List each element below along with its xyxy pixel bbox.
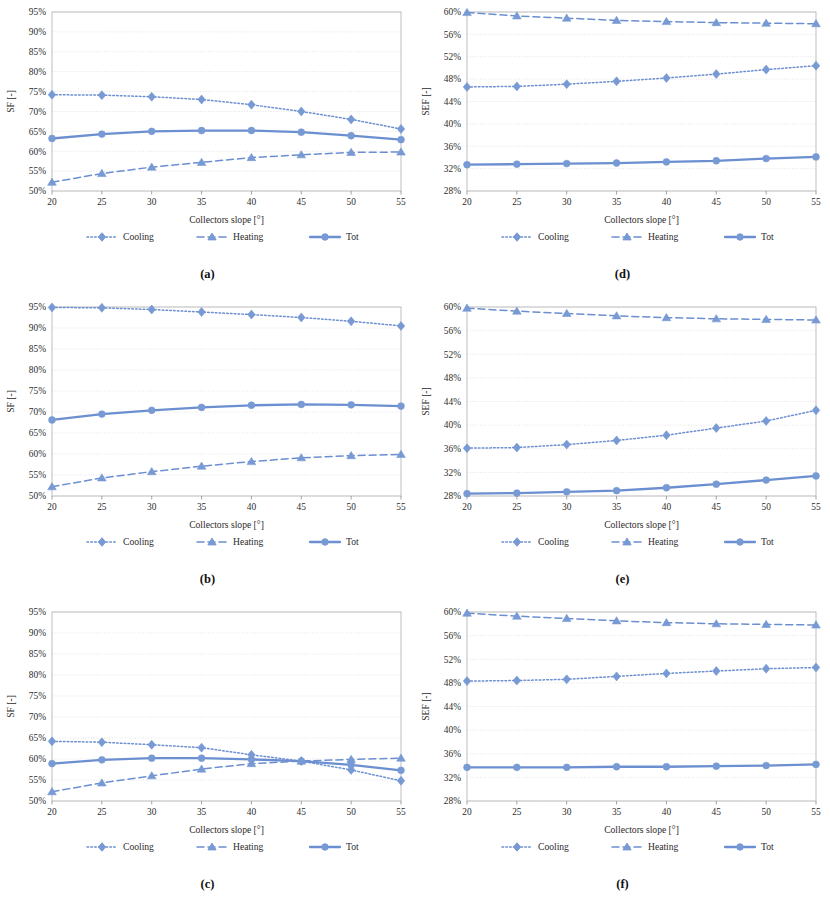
legend-item-heating[interactable]: Heating <box>612 536 679 547</box>
legend-item-tot[interactable]: Tot <box>310 231 359 242</box>
x-tick-label: 50 <box>346 807 356 817</box>
legend-label: Cooling <box>538 536 569 547</box>
legend: CoolingHeatingTot <box>502 231 774 242</box>
chart-panel-inner: 50%55%60%65%70%75%80%85%90%95%2025303540… <box>0 600 415 905</box>
y-tick-label: 80% <box>29 670 46 680</box>
y-axis-title: SF [-] <box>5 390 16 413</box>
data-point <box>198 404 205 411</box>
data-point <box>813 472 820 479</box>
y-tick-label: 28% <box>444 186 461 196</box>
legend-marker-circle <box>322 539 328 545</box>
y-tick-label: 52% <box>444 350 461 360</box>
x-axis-ticks: 2025303540455055 <box>462 191 821 207</box>
chart-b: 50%55%60%65%70%75%80%85%90%95%2025303540… <box>0 295 415 568</box>
y-tick-label: 56% <box>444 326 461 336</box>
legend-label: Tot <box>761 231 774 242</box>
legend-item-tot[interactable]: Tot <box>725 536 774 547</box>
legend-marker-diamond <box>98 233 105 242</box>
plot-area <box>52 307 401 496</box>
legend-item-heating[interactable]: Heating <box>612 841 679 852</box>
y-tick-label: 48% <box>444 678 461 688</box>
y-tick-label: 32% <box>444 468 461 478</box>
legend-marker-circle <box>737 539 743 545</box>
x-tick-label: 40 <box>662 807 672 817</box>
data-point <box>464 490 471 497</box>
legend-item-heating[interactable]: Heating <box>612 231 679 242</box>
legend-item-cooling[interactable]: Cooling <box>87 841 154 852</box>
x-tick-label: 30 <box>147 197 157 207</box>
y-tick-label: 90% <box>29 323 46 333</box>
legend-marker-circle <box>322 844 328 850</box>
chart-panel-inner: 28%32%36%40%44%48%52%56%60%2025303540455… <box>415 0 830 295</box>
data-point <box>663 763 670 770</box>
plot-area <box>52 612 401 801</box>
data-point <box>763 155 770 162</box>
legend-item-tot[interactable]: Tot <box>725 231 774 242</box>
panel-caption-b: (b) <box>0 572 415 587</box>
x-tick-label: 35 <box>197 502 207 512</box>
panel-caption-d: (d) <box>415 267 830 282</box>
panel-caption-c: (c) <box>0 877 415 892</box>
legend-item-tot[interactable]: Tot <box>725 841 774 852</box>
data-point <box>813 153 820 160</box>
chart-panel-inner: 28%32%36%40%44%48%52%56%60%2025303540455… <box>415 295 830 600</box>
chart-panel-a: 50%55%60%65%70%75%80%85%90%95%2025303540… <box>0 0 415 295</box>
legend-item-tot[interactable]: Tot <box>310 536 359 547</box>
legend-item-cooling[interactable]: Cooling <box>87 231 154 242</box>
legend-label: Cooling <box>123 536 154 547</box>
data-point <box>398 767 405 774</box>
legend-item-cooling[interactable]: Cooling <box>502 231 569 242</box>
legend-item-heating[interactable]: Heating <box>197 231 264 242</box>
data-point <box>198 755 205 762</box>
y-tick-label: 80% <box>29 365 46 375</box>
legend-marker-diamond <box>513 233 520 242</box>
legend-item-heating[interactable]: Heating <box>197 536 264 547</box>
data-point <box>198 127 205 134</box>
y-tick-label: 36% <box>444 444 461 454</box>
x-tick-label: 50 <box>346 197 356 207</box>
x-tick-label: 45 <box>297 807 307 817</box>
y-axis-ticks: 28%32%36%40%44%48%52%56%60% <box>444 607 461 806</box>
x-axis-title: Collectors slope [°] <box>189 214 264 225</box>
data-point <box>513 161 520 168</box>
data-point <box>563 764 570 771</box>
data-point <box>763 477 770 484</box>
legend-item-cooling[interactable]: Cooling <box>87 536 154 547</box>
legend-item-cooling[interactable]: Cooling <box>502 536 569 547</box>
legend-label: Cooling <box>123 231 154 242</box>
y-tick-label: 95% <box>29 7 46 17</box>
legend-item-tot[interactable]: Tot <box>310 841 359 852</box>
figure-grid: 50%55%60%65%70%75%80%85%90%95%2025303540… <box>0 0 830 905</box>
legend: CoolingHeatingTot <box>87 536 359 547</box>
x-tick-label: 45 <box>297 502 307 512</box>
x-tick-label: 35 <box>612 502 622 512</box>
x-tick-label: 55 <box>396 807 406 817</box>
panel-caption-f: (f) <box>415 877 830 892</box>
x-tick-label: 20 <box>462 807 472 817</box>
data-point <box>398 403 405 410</box>
data-point <box>663 484 670 491</box>
legend-marker-circle <box>737 844 743 850</box>
chart-a: 50%55%60%65%70%75%80%85%90%95%2025303540… <box>0 0 415 263</box>
data-point <box>248 756 255 763</box>
legend: CoolingHeatingTot <box>502 536 774 547</box>
x-tick-label: 25 <box>97 502 107 512</box>
legend-item-cooling[interactable]: Cooling <box>502 841 569 852</box>
y-tick-label: 60% <box>29 449 46 459</box>
x-axis-title: Collectors slope [°] <box>604 824 679 835</box>
y-tick-label: 75% <box>29 386 46 396</box>
x-tick-label: 40 <box>662 502 672 512</box>
y-tick-label: 95% <box>29 302 46 312</box>
y-tick-label: 50% <box>29 491 46 501</box>
data-point <box>49 135 56 142</box>
panel-caption-a: (a) <box>0 267 415 282</box>
x-axis-ticks: 2025303540455055 <box>47 191 406 207</box>
data-point <box>713 763 720 770</box>
legend-label: Cooling <box>538 841 569 852</box>
chart-panel-f: 28%32%36%40%44%48%52%56%60%2025303540455… <box>415 600 830 905</box>
x-tick-label: 55 <box>811 197 821 207</box>
data-point <box>563 488 570 495</box>
y-tick-label: 44% <box>444 397 461 407</box>
y-axis-title: SF [-] <box>5 90 16 113</box>
legend-item-heating[interactable]: Heating <box>197 841 264 852</box>
